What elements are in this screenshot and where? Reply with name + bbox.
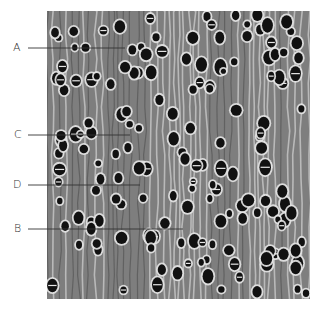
micrograph-texture (45, 7, 311, 299)
micrograph-photo (0, 0, 325, 309)
label-c: C (14, 129, 22, 140)
label-a: A (13, 42, 21, 53)
wood-micrograph-figure: A C D B (0, 0, 325, 309)
label-b: B (14, 223, 21, 234)
label-d: D (13, 179, 21, 190)
